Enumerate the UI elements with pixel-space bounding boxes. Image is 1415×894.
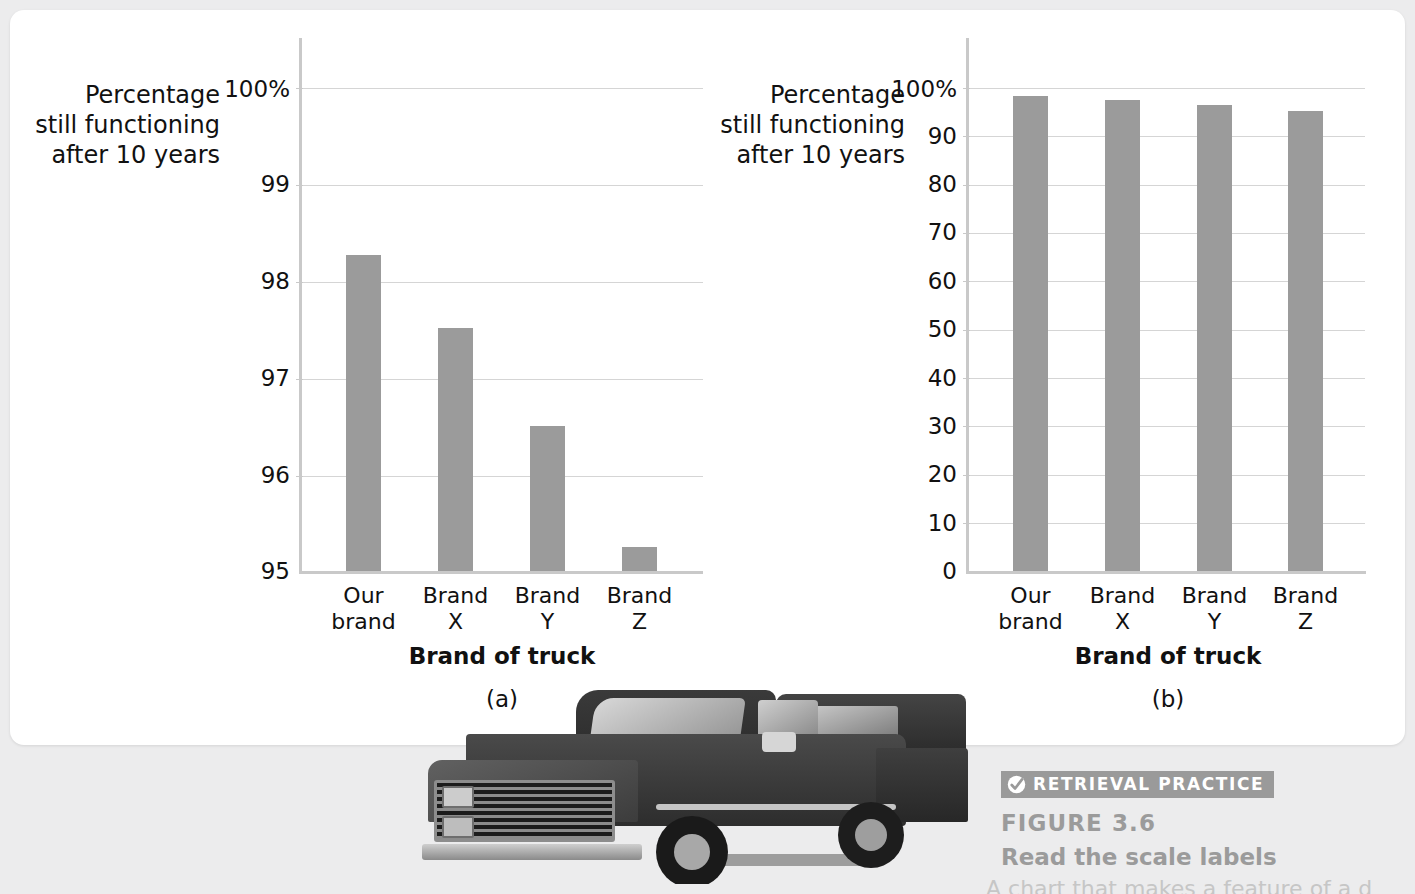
panel-b-xtick-brand-z-line-1: Brand	[1258, 583, 1353, 609]
panel-b-ytick-label-40: 40	[865, 367, 957, 390]
panel-a-bar-our-brand[interactable]	[346, 255, 381, 571]
figure-number: FIGURE 3.6	[1001, 810, 1156, 836]
panel-a-x-axis	[299, 571, 703, 574]
panel-b-xtick-our-brand-line-1: Our	[983, 583, 1078, 609]
truck-illustration	[406, 676, 976, 884]
panel-a-ytick-label-96: 96	[195, 464, 290, 487]
panel-a-xtick-brand-x: Brand X	[408, 583, 503, 635]
panel-a-xtick-brand-z: Brand Z	[592, 583, 687, 635]
panel-a-xtick-brand-y-line-1: Brand	[500, 583, 595, 609]
panel-b-xtick-brand-z-line-2: Z	[1258, 609, 1353, 635]
panel-a-xtick-brand-z-line-2: Z	[592, 609, 687, 635]
panel-b-xtick-brand-x: Brand X	[1075, 583, 1170, 635]
retrieval-practice-label: RETRIEVAL PRACTICE	[1033, 776, 1264, 793]
panel-b-letter: (b)	[1118, 686, 1218, 712]
retrieval-practice-badge: RETRIEVAL PRACTICE	[1001, 771, 1274, 798]
panel-a-gridline-99	[300, 185, 703, 186]
panel-b-ytick-label-90: 90	[865, 125, 957, 148]
panel-b-ytick-label-70: 70	[865, 221, 957, 244]
figure-caption-block: RETRIEVAL PRACTICE FIGURE 3.6 Read the s…	[978, 768, 1415, 884]
truck-headlight-lower	[442, 816, 474, 838]
panel-b-x-axis-title: Brand of truck	[1018, 643, 1318, 669]
panel-b-xtick-brand-x-line-2: X	[1075, 609, 1170, 635]
panel-b-xtick-brand-x-line-1: Brand	[1075, 583, 1170, 609]
truck-front-bumper	[422, 844, 642, 860]
panel-b-bar-brand-x[interactable]	[1105, 100, 1140, 571]
panel-b-ytick-label-60: 60	[865, 270, 957, 293]
check-circle-icon	[1007, 775, 1026, 794]
truck-side-mirror	[762, 732, 796, 752]
truck-front-hubcap	[674, 834, 710, 870]
figure-title: Read the scale labels	[1001, 844, 1277, 870]
panel-b-ytick-label-80: 80	[865, 173, 957, 196]
panel-a-xtick-brand-x-line-2: X	[408, 609, 503, 635]
panel-b-gridline-100	[967, 88, 1365, 89]
pickup-truck-photo	[406, 676, 976, 884]
chart-panel-a: Percentage still functioning after 10 ye…	[0, 0, 720, 720]
panel-a-ytick-label-100: 100%	[195, 78, 290, 101]
truck-headlight-upper	[442, 786, 474, 808]
panel-a-xtick-our-brand-line-2: brand	[316, 609, 411, 635]
panel-b-y-axis	[966, 38, 969, 574]
panel-b-xtick-brand-z: Brand Z	[1258, 583, 1353, 635]
panel-a-bar-brand-x[interactable]	[438, 328, 473, 571]
panel-a-bar-brand-z[interactable]	[622, 547, 657, 571]
panel-b-ytick-label-30: 30	[865, 415, 957, 438]
panel-b-ytick-label-0: 0	[865, 560, 957, 583]
panel-b-bar-our-brand[interactable]	[1013, 96, 1048, 571]
panel-a-y-axis-label-line-3: after 10 years	[30, 140, 220, 170]
panel-b-bar-brand-z[interactable]	[1288, 111, 1323, 571]
chart-panel-b: Percentage still functioning after 10 ye…	[690, 0, 1415, 720]
panel-a-xtick-brand-z-line-1: Brand	[592, 583, 687, 609]
panel-b-xtick-our-brand-line-2: brand	[983, 609, 1078, 635]
panel-a-ytick-label-97: 97	[195, 367, 290, 390]
panel-a-ytick-label-95: 95	[195, 560, 290, 583]
panel-b-x-axis	[966, 571, 1366, 574]
panel-a-xtick-our-brand: Our brand	[316, 583, 411, 635]
panel-a-xtick-brand-x-line-1: Brand	[408, 583, 503, 609]
panel-a-y-axis-label: Percentage still functioning after 10 ye…	[30, 80, 220, 170]
panel-a-x-axis-title: Brand of truck	[352, 643, 652, 669]
panel-b-ytick-label-50: 50	[865, 318, 957, 341]
panel-a-xtick-our-brand-line-1: Our	[316, 583, 411, 609]
panel-b-xtick-our-brand: Our brand	[983, 583, 1078, 635]
panel-a-ytick-label-98: 98	[195, 270, 290, 293]
panel-a-bar-brand-y[interactable]	[530, 426, 565, 571]
truck-rear-hubcap	[855, 819, 887, 851]
panel-b-ytick-label-20: 20	[865, 463, 957, 486]
panel-a-gridline-100	[300, 88, 703, 89]
panel-a-ytick-label-99: 99	[195, 173, 290, 196]
figure-body-text: A chart that makes a feature of a d	[986, 876, 1415, 894]
panel-b-xtick-brand-y-line-1: Brand	[1167, 583, 1262, 609]
panel-a-y-axis	[299, 38, 302, 574]
panel-a-xtick-brand-y: Brand Y	[500, 583, 595, 635]
panel-b-ytick-label-100: 100%	[865, 78, 957, 101]
panel-b-xtick-brand-y: Brand Y	[1167, 583, 1262, 635]
panel-b-xtick-brand-y-line-2: Y	[1167, 609, 1262, 635]
panel-a-y-axis-label-line-1: Percentage	[30, 80, 220, 110]
panel-a-xtick-brand-y-line-2: Y	[500, 609, 595, 635]
panel-b-ytick-label-10: 10	[865, 512, 957, 535]
panel-b-bar-brand-y[interactable]	[1197, 105, 1232, 571]
panel-a-y-axis-label-line-2: still functioning	[30, 110, 220, 140]
